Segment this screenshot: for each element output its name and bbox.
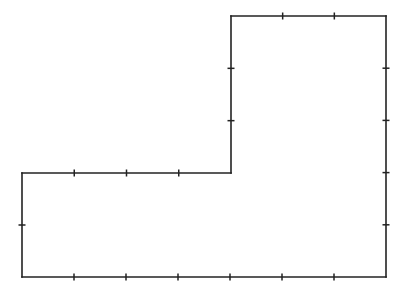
l-shape-diagram — [0, 0, 402, 299]
polygon-edges — [22, 16, 386, 277]
tick-marks — [19, 13, 390, 281]
